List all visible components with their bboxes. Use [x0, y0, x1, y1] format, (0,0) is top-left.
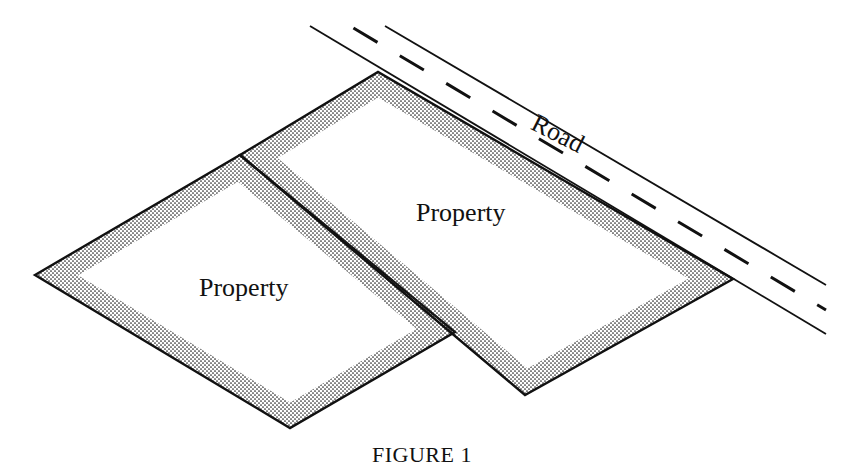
figure-diagram	[0, 0, 853, 476]
property-label-right: Property	[416, 198, 506, 228]
property-label-left: Property	[199, 273, 289, 303]
road-centerline-dashed	[350, 26, 826, 310]
road-edge-upper	[385, 26, 826, 285]
figure-caption: FIGURE 1	[372, 442, 472, 468]
